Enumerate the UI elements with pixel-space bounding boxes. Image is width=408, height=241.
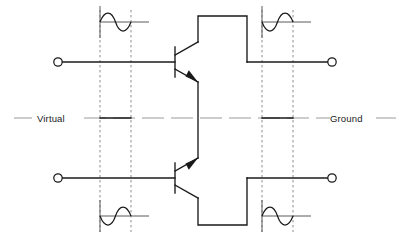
waveform-top-left	[100, 6, 149, 38]
transistor-bottom-emitter-arrow	[186, 158, 199, 170]
terminal-input-top[interactable]	[54, 58, 62, 66]
wire-collector-top-route	[198, 16, 247, 62]
transistor-top-collector-lead	[175, 42, 198, 55]
virtual-ground-label-right: Ground	[330, 114, 363, 124]
waveform-top-right	[262, 6, 311, 38]
waveform-bottom-left	[100, 200, 149, 232]
transistor-bottom-collector-lead	[175, 185, 198, 198]
waveforms	[100, 6, 311, 232]
circuit-diagram: Virtual Ground	[0, 0, 408, 241]
wiring	[63, 16, 328, 225]
virtual-ground-label-left: Virtual	[37, 114, 65, 124]
transistor-top-emitter-arrow	[186, 70, 199, 82]
terminal-output-top[interactable]	[328, 58, 336, 66]
wire-collector-bottom-route	[198, 178, 247, 225]
emitter-arrowheads	[186, 70, 199, 170]
terminal-input-bottom[interactable]	[54, 174, 62, 182]
terminal-output-bottom[interactable]	[328, 174, 336, 182]
terminals	[54, 58, 336, 182]
waveform-bottom-right	[262, 200, 311, 232]
